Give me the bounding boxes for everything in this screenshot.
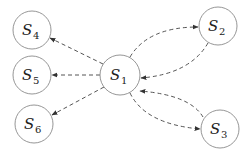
node-s4: S 4 [13, 11, 51, 49]
node-s6-subscript: 6 [35, 124, 41, 135]
node-s1: S 1 [100, 55, 140, 95]
node-s4-label: S [22, 21, 32, 39]
edge-s1-s4 [50, 38, 103, 64]
edge-s1-s6 [52, 87, 104, 115]
node-s3: S 3 [201, 110, 239, 148]
node-s2: S 2 [199, 7, 237, 45]
node-s3-label: S [210, 120, 220, 138]
edge-s3-s1 [140, 91, 203, 117]
graph-diagram: S 1 S 2 S 3 S 4 S 5 S 6 [0, 0, 250, 165]
node-s1-label: S [110, 66, 120, 84]
node-s2-subscript: 2 [219, 26, 225, 37]
edge-s2-s1 [141, 43, 208, 78]
node-s2-label: S [208, 17, 218, 35]
node-s4-subscript: 4 [33, 30, 39, 41]
node-s5: S 5 [13, 56, 51, 94]
edge-s1-s2 [130, 27, 198, 57]
node-s6-label: S [24, 115, 34, 133]
edge-s1-s3 [130, 93, 200, 129]
node-s5-subscript: 5 [33, 75, 39, 86]
node-s5-label: S [22, 66, 32, 84]
node-s3-subscript: 3 [221, 129, 227, 140]
node-s1-subscript: 1 [121, 75, 127, 86]
node-s6: S 6 [15, 105, 53, 143]
